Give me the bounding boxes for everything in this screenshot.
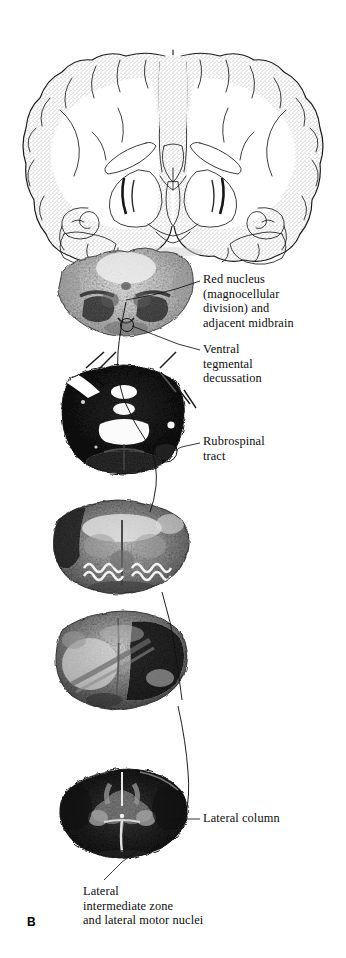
- section-caudal-medulla: [50, 605, 200, 715]
- leader-rubrospinal: [177, 443, 200, 451]
- section-coronal-forebrain: [23, 50, 323, 264]
- figure-root: Red nucleus (magnocellular division) and…: [0, 0, 346, 958]
- caption-lateral-intermediate-zone: Lateral intermediate zone and lateral mo…: [83, 884, 203, 928]
- figure-artwork: [0, 0, 346, 958]
- section-spinal-cord: [52, 762, 197, 867]
- section-pons: [50, 360, 200, 485]
- label-rubrospinal-tract: Rubrospinal tract: [203, 434, 265, 463]
- label-lateral-column: Lateral column: [203, 811, 280, 826]
- panel-letter: B: [27, 915, 36, 929]
- section-medulla: [45, 495, 200, 600]
- leader-ventral-tegmental: [132, 326, 200, 350]
- label-ventral-tegmental-decussation: Ventral tegmental decussation: [203, 342, 262, 386]
- label-red-nucleus: Red nucleus (magnocellular division) and…: [203, 272, 294, 330]
